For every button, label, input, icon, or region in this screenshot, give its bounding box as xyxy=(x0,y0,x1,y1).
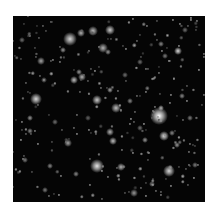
star-point xyxy=(162,53,168,59)
faint-source xyxy=(203,55,205,58)
galaxy-blob xyxy=(63,32,77,46)
faint-source xyxy=(132,120,135,123)
faint-source xyxy=(47,113,50,116)
faint-source xyxy=(149,43,153,47)
faint-source xyxy=(88,92,91,95)
faint-source xyxy=(79,79,82,82)
faint-source xyxy=(182,139,185,142)
faint-source xyxy=(94,130,98,134)
faint-source xyxy=(91,73,94,76)
faint-source xyxy=(188,151,191,154)
faint-source xyxy=(185,84,188,87)
faint-source xyxy=(132,17,135,20)
faint-source xyxy=(89,183,92,186)
faint-source xyxy=(59,174,62,177)
faint-source xyxy=(128,122,131,125)
faint-source xyxy=(94,69,97,72)
faint-source xyxy=(154,33,157,36)
faint-source xyxy=(75,113,78,116)
faint-source xyxy=(197,68,200,71)
faint-source xyxy=(142,175,145,178)
faint-source xyxy=(50,20,53,23)
faint-source xyxy=(158,66,161,69)
star-point xyxy=(137,59,143,65)
faint-source xyxy=(75,132,78,135)
faint-source xyxy=(121,44,124,47)
faint-source xyxy=(35,31,38,34)
faint-source xyxy=(31,171,34,174)
star-point xyxy=(182,27,188,33)
faint-source xyxy=(144,90,147,93)
faint-source xyxy=(193,151,196,154)
faint-source xyxy=(44,29,47,32)
faint-source xyxy=(135,67,138,70)
faint-source xyxy=(97,66,100,69)
faint-source xyxy=(159,193,162,196)
faint-source xyxy=(120,149,123,152)
star-point xyxy=(42,187,48,193)
faint-source xyxy=(189,18,192,21)
faint-source xyxy=(133,185,137,189)
faint-source xyxy=(63,56,66,59)
faint-source xyxy=(138,33,141,36)
faint-source xyxy=(101,165,104,168)
faint-source xyxy=(146,158,149,161)
faint-source xyxy=(160,156,164,160)
faint-source xyxy=(19,139,22,142)
faint-source xyxy=(86,79,89,82)
faint-source xyxy=(67,90,70,93)
faint-source xyxy=(50,140,53,143)
faint-source xyxy=(145,24,148,27)
faint-source xyxy=(49,59,52,62)
faint-source xyxy=(141,52,144,55)
faint-source xyxy=(181,179,185,183)
faint-source xyxy=(101,198,104,201)
faint-source xyxy=(89,67,92,70)
star-point xyxy=(27,115,33,121)
star-point xyxy=(142,137,148,143)
faint-source xyxy=(181,118,184,121)
faint-source xyxy=(133,110,136,113)
faint-source xyxy=(86,51,89,54)
galaxy-blob xyxy=(105,25,115,35)
faint-source xyxy=(13,151,15,154)
faint-source xyxy=(89,131,92,134)
faint-source xyxy=(158,92,161,95)
faint-source xyxy=(192,176,195,179)
faint-source xyxy=(171,18,174,21)
faint-source xyxy=(14,119,17,122)
faint-source xyxy=(95,104,99,108)
faint-source xyxy=(24,81,27,84)
faint-source xyxy=(114,97,117,100)
galaxy-blob xyxy=(70,76,78,84)
faint-source xyxy=(136,95,139,98)
faint-source xyxy=(130,136,134,140)
star-point xyxy=(73,171,79,177)
faint-source xyxy=(156,19,159,22)
faint-source xyxy=(20,120,23,123)
faint-source xyxy=(100,86,103,89)
faint-source xyxy=(192,88,195,91)
faint-source xyxy=(49,72,53,76)
faint-source xyxy=(145,86,149,90)
faint-source xyxy=(106,176,109,179)
faint-source xyxy=(109,37,112,40)
faint-source xyxy=(168,101,171,104)
faint-source xyxy=(22,23,25,26)
star-point xyxy=(76,69,82,75)
faint-source xyxy=(120,135,123,138)
faint-source xyxy=(13,186,15,189)
galaxy-blob xyxy=(130,189,138,197)
faint-source xyxy=(127,21,130,24)
faint-source xyxy=(180,58,184,62)
faint-source xyxy=(91,193,95,197)
faint-source xyxy=(24,133,27,136)
star-point xyxy=(52,119,58,125)
faint-source xyxy=(106,20,110,24)
star-point xyxy=(187,115,193,121)
faint-source xyxy=(140,152,143,155)
faint-source xyxy=(116,90,119,93)
faint-source xyxy=(21,97,24,100)
faint-source xyxy=(48,195,51,198)
faint-source xyxy=(124,80,127,83)
